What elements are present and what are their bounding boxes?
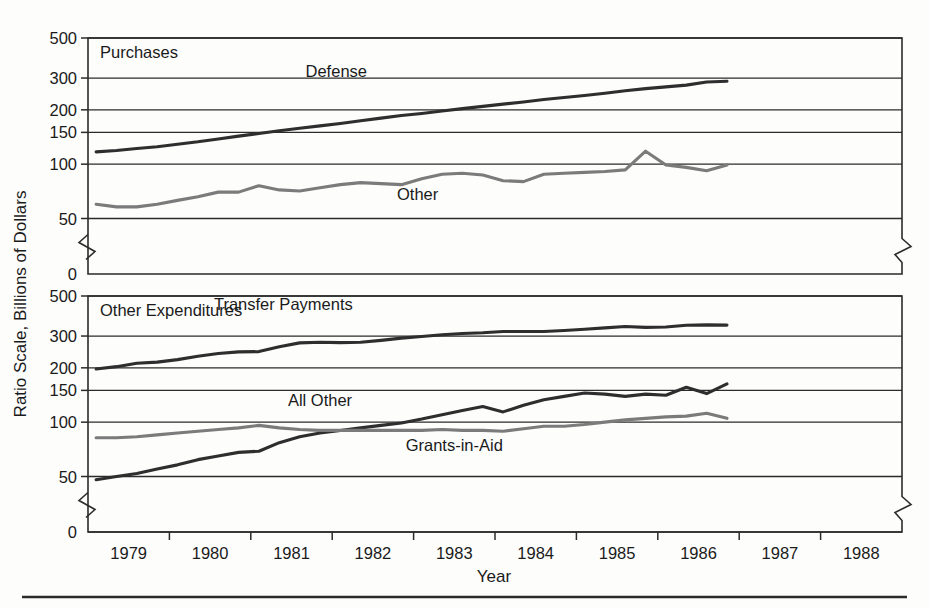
x-tick-label-1983: 1983 [436, 544, 473, 562]
x-tick-label-1982: 1982 [355, 544, 392, 562]
series-label-transfer-payments: Transfer Payments [214, 295, 353, 313]
y-tick-label-200: 200 [49, 101, 77, 119]
y-tick-label-500: 500 [49, 29, 77, 47]
x-axis-title: Year [477, 567, 512, 586]
panel-title-0: Purchases [100, 43, 178, 61]
series-label-other: Other [397, 185, 439, 203]
y-tick-label-150: 150 [49, 381, 77, 399]
y-tick-label-100: 100 [49, 155, 77, 173]
y-tick-label-300: 300 [49, 327, 77, 345]
y-tick-label-500: 500 [49, 287, 77, 305]
y-tick-label-300: 300 [49, 69, 77, 87]
y-tick-label-100: 100 [49, 413, 77, 431]
y-tick-label-150: 150 [49, 123, 77, 141]
y-tick-label-50: 50 [59, 210, 77, 228]
x-tick-label-1986: 1986 [680, 544, 717, 562]
x-tick-label-1988: 1988 [843, 544, 880, 562]
y-axis-title: Ratio Scale, Billions of Dollars [11, 191, 30, 418]
x-tick-label-1981: 1981 [273, 544, 310, 562]
y-tick-label-50: 50 [59, 468, 77, 486]
x-tick-label-1985: 1985 [599, 544, 636, 562]
x-tick-label-1987: 1987 [762, 544, 799, 562]
government-expenditures-figure: 500300200150100500PurchasesDefenseOther5… [0, 0, 929, 608]
x-tick-label-1984: 1984 [517, 544, 554, 562]
x-tick-label-1979: 1979 [110, 544, 147, 562]
y-tick-label-0: 0 [68, 265, 77, 283]
y-tick-label-200: 200 [49, 359, 77, 377]
y-tick-label-0: 0 [68, 523, 77, 541]
series-label-defense: Defense [306, 62, 367, 80]
x-tick-label-1980: 1980 [192, 544, 229, 562]
series-label-grants-in-aid: Grants-in-Aid [406, 436, 503, 454]
series-label-all-other: All Other [288, 391, 353, 409]
